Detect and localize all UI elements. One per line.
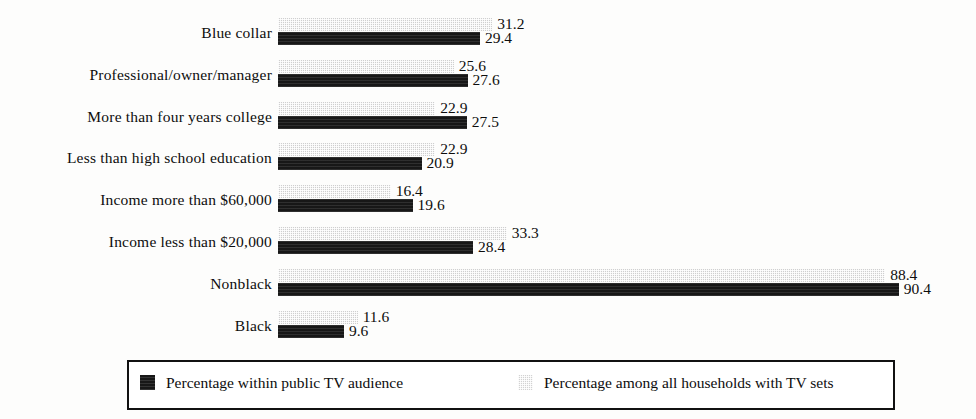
bar-public-tv-audience [278, 241, 473, 254]
bar-group-row: Income more than $60,00016.419.6 [0, 185, 976, 227]
bar-group-row: Professional/owner/manager25.627.6 [0, 60, 976, 102]
bar-group-row: Nonblack88.490.4 [0, 269, 976, 311]
legend-swatch-dark-icon [140, 375, 155, 390]
bar-public-tv-audience [278, 157, 422, 170]
bar-value-label: 19.6 [418, 197, 445, 213]
legend-swatch-light-icon [518, 375, 533, 390]
bar-all-households [278, 227, 507, 240]
bar-value-label: 28.4 [478, 239, 505, 255]
bar-public-tv-audience [278, 325, 344, 338]
bar-public-tv-audience [278, 116, 467, 129]
bar-public-tv-audience [278, 74, 468, 87]
chart-legend: Percentage within public TV audiencePerc… [127, 360, 895, 410]
category-label: More than four years college [0, 109, 272, 125]
category-label: Blue collar [0, 25, 272, 41]
bar-all-households [278, 143, 435, 156]
bar-public-tv-audience [278, 32, 480, 45]
legend-entry[interactable]: Percentage within public TV audience [140, 375, 403, 391]
bar-group-row: Blue collar31.229.4 [0, 18, 976, 60]
plot-area: Blue collar31.229.4Professional/owner/ma… [0, 0, 976, 345]
bar-value-label: 90.4 [904, 281, 931, 297]
bar-all-households [278, 102, 435, 115]
bar-group-row: Black11.69.6 [0, 311, 976, 353]
bar-value-label: 20.9 [427, 155, 454, 171]
bar-public-tv-audience [278, 199, 413, 212]
bar-value-label: 27.6 [473, 72, 500, 88]
bar-group-row: Income less than $20,00033.328.4 [0, 227, 976, 269]
category-label: Income more than $60,000 [0, 192, 272, 208]
bar-value-label: 22.9 [440, 100, 467, 116]
bar-all-households [278, 60, 454, 73]
bar-all-households [278, 185, 391, 198]
bar-group-row: More than four years college22.927.5 [0, 102, 976, 144]
category-label: Black [0, 318, 272, 334]
bar-public-tv-audience [278, 283, 899, 296]
bar-all-households [278, 311, 358, 324]
bar-value-label: 9.6 [349, 323, 368, 339]
category-label: Less than high school education [0, 150, 272, 166]
category-label: Nonblack [0, 276, 272, 292]
bar-value-label: 33.3 [512, 225, 539, 241]
bar-value-label: 27.5 [472, 114, 499, 130]
bar-value-label: 29.4 [485, 30, 512, 46]
category-label: Professional/owner/manager [0, 67, 272, 83]
legend-label: Percentage among all households with TV … [544, 375, 834, 391]
legend-entry[interactable]: Percentage among all households with TV … [518, 375, 834, 391]
bar-all-households [278, 269, 885, 282]
bar-group-row: Less than high school education22.920.9 [0, 143, 976, 185]
legend-label: Percentage within public TV audience [166, 375, 403, 391]
horizontal-bar-chart: Blue collar31.229.4Professional/owner/ma… [0, 0, 976, 419]
category-label: Income less than $20,000 [0, 234, 272, 250]
bar-all-households [278, 18, 492, 31]
